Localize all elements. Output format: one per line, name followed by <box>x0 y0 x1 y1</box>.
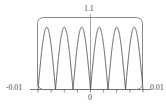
x-max-tick-label: 0.01 <box>150 84 164 92</box>
y-max-tick-label: 1.1 <box>84 5 94 13</box>
oscillation-plot: 1.1 -0.01 0.01 0 <box>0 0 166 107</box>
x-zero-tick-label: 0 <box>88 94 92 102</box>
x-min-tick-label: -0.01 <box>6 84 22 92</box>
plot-canvas <box>0 0 166 107</box>
